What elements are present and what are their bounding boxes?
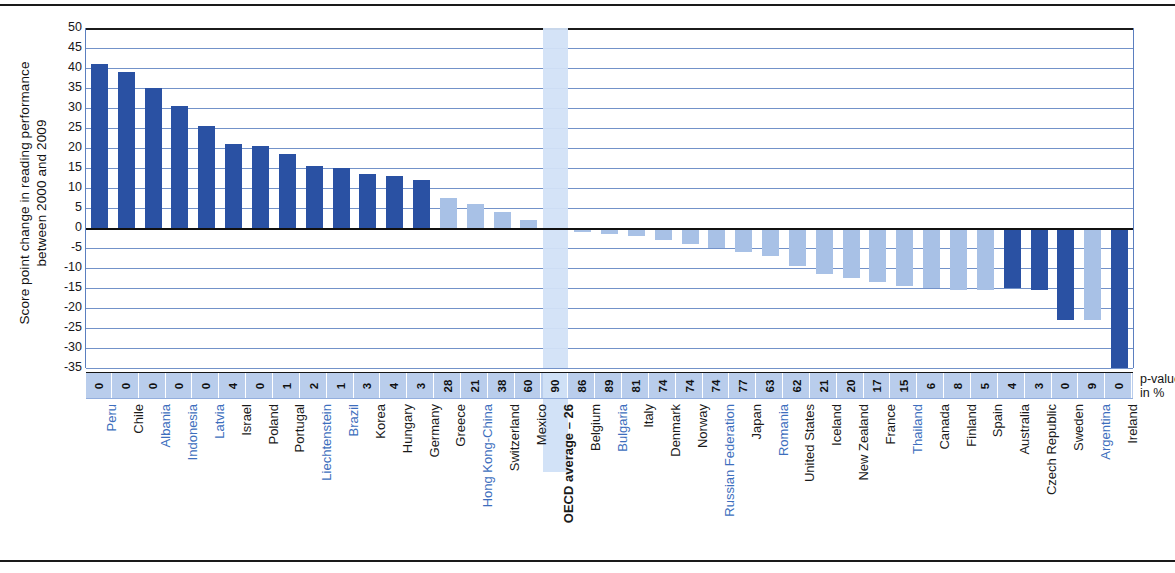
category-label-romania: Romania <box>758 400 783 550</box>
pvalue-cell: 15 <box>892 373 917 399</box>
pvalue-text: 28 <box>442 380 454 393</box>
pvalue-cell: 77 <box>731 373 756 399</box>
pvalue-cell: 0 <box>114 373 139 399</box>
bar <box>91 64 108 228</box>
bar <box>977 228 994 290</box>
pvalue-text: 0 <box>93 383 105 389</box>
pvalue-text: 90 <box>549 380 561 393</box>
y-tick-25: 25 <box>48 120 82 134</box>
pvalue-text: 4 <box>1006 383 1018 389</box>
pvalue-band: 0000040121343282138609086898174747477636… <box>86 372 1133 398</box>
y-tick-35: 35 <box>48 80 82 94</box>
category-label-mexico: Mexico <box>516 400 541 550</box>
y-tick--20: -20 <box>48 300 82 314</box>
pvalue-text: 63 <box>764 380 776 393</box>
pvalue-text: 21 <box>469 380 481 393</box>
pvalue-axis-label: p-value in % <box>1140 372 1175 400</box>
pvalue-cell: 86 <box>570 373 595 399</box>
pvalue-text: 1 <box>335 383 347 389</box>
pvalue-text: 81 <box>630 380 642 393</box>
pvalue-text: 15 <box>898 380 910 393</box>
gridline--35 <box>86 368 1133 369</box>
pvalue-text: 4 <box>388 383 400 389</box>
page-bottom-rule <box>0 560 1175 562</box>
pvalue-text: 4 <box>227 383 239 389</box>
pvalue-text: 38 <box>496 380 508 393</box>
y-tick-10: 10 <box>48 180 82 194</box>
plot-area: 50454035302520151050-5-10-15-20-25-30-35 <box>86 28 1133 368</box>
category-label-france: France <box>865 400 890 550</box>
bar <box>145 88 162 228</box>
category-label-korea: Korea <box>355 400 380 550</box>
bar <box>708 228 725 248</box>
category-label-united-states: United States <box>785 400 810 550</box>
category-label-argentina: Argentina <box>1080 400 1105 550</box>
category-label-norway: Norway <box>678 400 703 550</box>
category-label-italy: Italy <box>624 400 649 550</box>
pvalue-cell: 60 <box>516 373 541 399</box>
y-tick-20: 20 <box>48 140 82 154</box>
pvalue-text: 6 <box>925 383 937 389</box>
pvalue-cell: 38 <box>490 373 515 399</box>
pvalue-cell: 81 <box>624 373 649 399</box>
pvalue-cell: 63 <box>758 373 783 399</box>
bar <box>386 176 403 228</box>
bar <box>950 228 967 290</box>
bar <box>923 228 940 288</box>
y-tick--30: -30 <box>48 340 82 354</box>
pvalue-cell: 0 <box>1107 373 1132 399</box>
pvalue-cell: 3 <box>355 373 380 399</box>
category-label-iceland: Iceland <box>812 400 837 550</box>
pvalue-note-line2: in % <box>1140 386 1175 400</box>
pvalue-cell: 89 <box>597 373 622 399</box>
pvalue-text: 0 <box>1059 383 1071 389</box>
pvalue-text: 20 <box>845 380 857 393</box>
chart-page: Score point change in reading performanc… <box>0 0 1175 573</box>
category-label-bulgaria: Bulgaria <box>597 400 622 550</box>
category-label-canada: Canada <box>919 400 944 550</box>
bar <box>520 220 537 228</box>
pvalue-cell: 2 <box>302 373 327 399</box>
category-label-new-zealand: New Zealand <box>839 400 864 550</box>
pvalue-text: 74 <box>710 380 722 393</box>
bar <box>494 212 511 228</box>
y-tick-40: 40 <box>48 60 82 74</box>
bar <box>171 106 188 228</box>
y-tick--5: -5 <box>48 240 82 254</box>
category-label-czech-republic: Czech Republic <box>1027 400 1052 550</box>
category-label-israel: Israel <box>221 400 246 550</box>
category-label-albania: Albania <box>141 400 166 550</box>
category-label-japan: Japan <box>731 400 756 550</box>
category-label-belgium: Belgium <box>570 400 595 550</box>
category-label-greece: Greece <box>436 400 461 550</box>
category-label-hong-kong-china: Hong Kong-China <box>463 400 488 550</box>
category-label-finland: Finland <box>946 400 971 550</box>
pvalue-text: 77 <box>737 380 749 393</box>
pvalue-cell: 17 <box>865 373 890 399</box>
y-tick-30: 30 <box>48 100 82 114</box>
pvalue-text: 62 <box>791 380 803 393</box>
bar <box>306 166 323 228</box>
pvalue-cell: 0 <box>167 373 192 399</box>
pvalue-text: 8 <box>952 383 964 389</box>
bar <box>467 204 484 228</box>
pvalue-text: 74 <box>657 380 669 393</box>
pvalue-cell: 0 <box>141 373 166 399</box>
pvalue-text: 60 <box>522 380 534 393</box>
bar <box>816 228 833 274</box>
pvalue-cell: 5 <box>973 373 998 399</box>
pvalue-cell: 20 <box>839 373 864 399</box>
bar <box>198 126 215 228</box>
category-label-chile: Chile <box>114 400 139 550</box>
pvalue-cell: 1 <box>275 373 300 399</box>
pvalue-cell: 0 <box>87 373 112 399</box>
pvalue-note-line1: p-value <box>1140 372 1175 386</box>
bar <box>789 228 806 266</box>
bars-layer <box>86 28 1133 368</box>
category-label-switzerland: Switzerland <box>490 400 515 550</box>
y-tick-15: 15 <box>48 160 82 174</box>
category-label-latvia: Latvia <box>194 400 219 550</box>
bar <box>359 174 376 228</box>
pvalue-text: 9 <box>1086 383 1098 389</box>
bar <box>655 228 672 240</box>
